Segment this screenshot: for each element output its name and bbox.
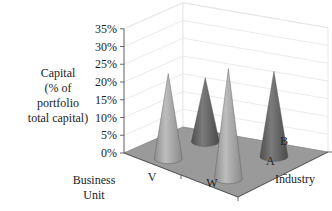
- y-tick-label-a: A: [266, 154, 275, 168]
- z-axis-title-line-3: portfolio: [37, 96, 79, 110]
- x-axis-title-line-2: Unit: [83, 188, 105, 202]
- z-tick-label: 20%: [95, 75, 117, 89]
- z-tick-label: 0%: [101, 146, 117, 160]
- z-axis-title-line-2: (% of: [45, 81, 72, 95]
- x-axis-title-line-1: Business: [73, 173, 116, 187]
- z-axis-title: Capital (% of portfolio total capital): [28, 66, 88, 125]
- x-tick-label-w: W: [206, 176, 218, 190]
- y-axis-title: Industry: [275, 172, 315, 186]
- x-tick-label-v: V: [148, 170, 157, 184]
- x-axis-title: Business Unit: [73, 173, 116, 202]
- z-tick-label: 25%: [95, 57, 117, 71]
- cone-chart: 0%5%10%15%20%25%30%35% Capital (% of por…: [0, 0, 332, 211]
- z-axis-title-line-4: total capital): [28, 111, 88, 125]
- value-axis: 0%5%10%15%20%25%30%35%: [95, 22, 124, 160]
- z-axis-title-line-1: Capital: [41, 66, 76, 80]
- z-tick-label: 35%: [95, 22, 117, 36]
- y-tick-label-b: B: [280, 134, 288, 148]
- z-tick-label: 10%: [95, 111, 117, 125]
- z-tick-label: 5%: [101, 128, 117, 142]
- z-tick-label: 15%: [95, 93, 117, 107]
- z-tick-label: 30%: [95, 40, 117, 54]
